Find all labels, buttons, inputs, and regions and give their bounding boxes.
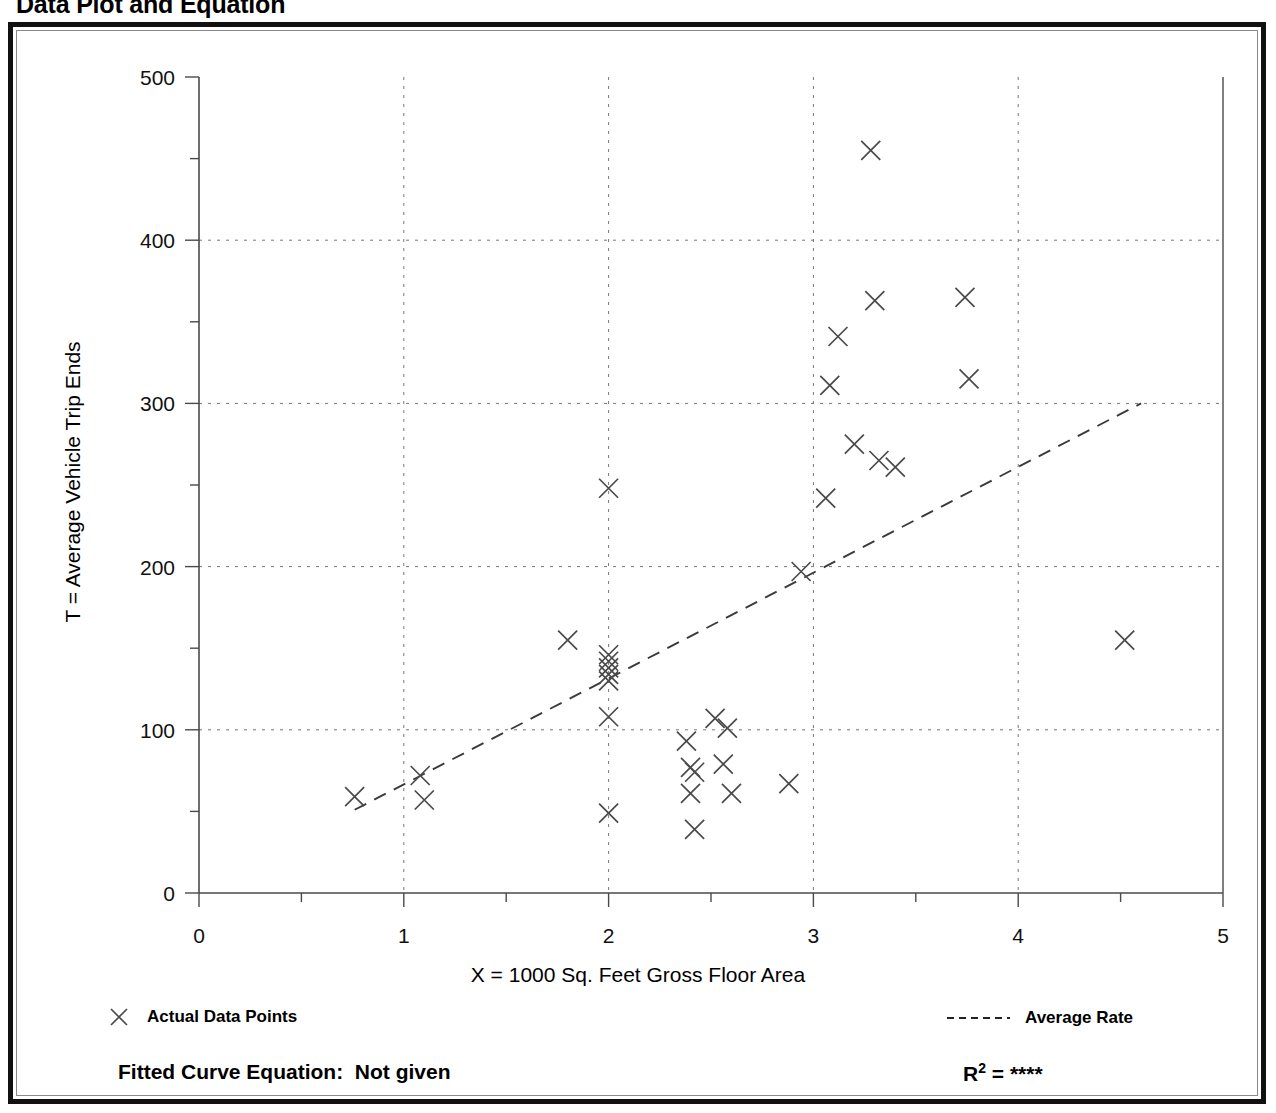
r-squared-equals: =	[992, 1062, 1004, 1085]
data-point-marker	[599, 479, 618, 498]
data-point-marker	[820, 376, 839, 395]
data-point-marker	[865, 291, 884, 310]
data-point-marker	[886, 458, 905, 477]
data-point-marker	[415, 790, 434, 809]
y-tick-label: 200	[140, 556, 175, 579]
data-point-marker	[718, 719, 737, 738]
dashed-line-icon	[947, 1017, 1010, 1019]
fitted-curve-equation: Fitted Curve Equation: Not given	[118, 1060, 451, 1084]
y-axis-label: T = Average Vehicle Trip Ends	[61, 272, 85, 692]
scatter-plot: 0100200300400500012345	[0, 0, 1276, 1113]
x-axis-label: X = 1000 Sq. Feet Gross Floor Area	[0, 963, 1276, 987]
fitted-curve-equation-label: Fitted Curve Equation:	[118, 1060, 343, 1083]
fitted-curve-equation-value: Not given	[355, 1060, 451, 1083]
y-tick-label: 500	[140, 66, 175, 89]
y-tick-label: 400	[140, 229, 175, 252]
x-tick-label: 3	[808, 924, 820, 947]
data-point-marker	[960, 369, 979, 388]
average-rate-trendline	[355, 403, 1141, 809]
data-point-marker	[816, 489, 835, 508]
y-tick-label: 300	[140, 392, 175, 415]
data-point-marker	[845, 435, 864, 454]
data-point-marker	[1115, 631, 1134, 650]
axis-lines	[199, 77, 1223, 893]
legend-average-rate: Average Rate	[947, 1008, 1133, 1028]
data-point-marker	[685, 820, 704, 839]
data-point-marker	[861, 141, 880, 160]
data-point-marker	[677, 732, 696, 751]
data-point-marker	[599, 707, 618, 726]
data-point-markers	[345, 141, 1134, 839]
r-squared-stars: ****	[1010, 1062, 1043, 1085]
x-tick-label: 0	[193, 924, 205, 947]
y-tick-label: 100	[140, 719, 175, 742]
chart-page: Data Plot and Equation 01002003004005000…	[0, 0, 1276, 1113]
axis-tick-labels: 0100200300400500012345	[140, 66, 1229, 947]
data-point-marker	[792, 562, 811, 581]
x-tick-label: 4	[1012, 924, 1024, 947]
x-marker-icon	[108, 1006, 130, 1028]
data-point-marker	[558, 631, 577, 650]
r-squared-exponent: 2	[978, 1060, 986, 1076]
x-tick-label: 5	[1217, 924, 1229, 947]
data-point-marker	[828, 327, 847, 346]
data-point-marker	[722, 784, 741, 803]
data-point-marker	[411, 766, 430, 785]
x-tick-label: 2	[603, 924, 615, 947]
gridlines	[199, 77, 1223, 893]
legend-actual-data-points-label: Actual Data Points	[147, 1007, 297, 1027]
r-squared-label: R	[963, 1062, 978, 1085]
legend-average-rate-label: Average Rate	[1025, 1008, 1133, 1028]
data-point-marker	[955, 288, 974, 307]
r-squared-value: R2 = ****	[963, 1060, 1043, 1086]
legend-actual-data-points: Actual Data Points	[108, 1006, 297, 1028]
axis-ticks	[185, 77, 1223, 907]
data-point-marker	[779, 774, 798, 793]
data-point-marker	[706, 709, 725, 728]
data-point-marker	[681, 784, 700, 803]
data-point-marker	[345, 787, 364, 806]
y-tick-label: 0	[163, 882, 175, 905]
data-point-marker	[714, 755, 733, 774]
data-point-marker	[869, 451, 888, 470]
x-tick-label: 1	[398, 924, 410, 947]
data-point-marker	[685, 763, 704, 782]
